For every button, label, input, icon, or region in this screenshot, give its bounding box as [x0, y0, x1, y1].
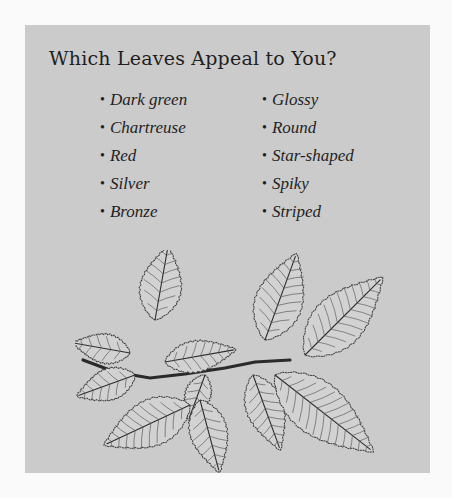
leaf-lower-left-mid — [75, 360, 141, 412]
leaf-preferences-panel: Which Leaves Appeal to You? •Dark green … — [25, 25, 430, 473]
bullet-icon: • — [100, 120, 105, 135]
list-item-label: Spiky — [272, 174, 309, 193]
leaf-texture-shape-list: •Glossy •Round •Star-shaped •Spiky •Stri… — [262, 88, 354, 228]
list-item: •Red — [100, 144, 187, 172]
list-item-label: Glossy — [272, 90, 318, 109]
bullet-icon: • — [262, 120, 267, 135]
bullet-icon: • — [100, 148, 105, 163]
leafy-branch-illustration — [75, 250, 385, 475]
leaves-group — [75, 250, 385, 475]
bullet-icon: • — [262, 148, 267, 163]
list-item-label: Chartreuse — [110, 118, 186, 137]
leaf-branch-drawing-icon — [75, 250, 385, 475]
page-title: Which Leaves Appeal to You? — [49, 47, 337, 69]
leaf-top-left — [134, 250, 189, 324]
list-item: •Chartreuse — [100, 116, 187, 144]
leaf-mid-left-small — [75, 328, 133, 368]
list-item: •Glossy — [262, 88, 354, 116]
list-item-label: Striped — [272, 202, 321, 221]
bullet-icon: • — [262, 204, 267, 219]
list-item-label: Bronze — [110, 202, 158, 221]
list-item-label: Red — [110, 146, 136, 165]
list-item: •Spiky — [262, 172, 354, 200]
list-item: •Striped — [262, 200, 354, 228]
bullet-icon: • — [100, 204, 105, 219]
bullet-icon: • — [262, 92, 267, 107]
list-item: •Dark green — [100, 88, 187, 116]
list-item: •Star-shaped — [262, 144, 354, 172]
list-item: •Round — [262, 116, 354, 144]
bullet-icon: • — [100, 92, 105, 107]
list-item-label: Silver — [110, 174, 150, 193]
list-item: •Silver — [100, 172, 187, 200]
leaf-color-list: •Dark green •Chartreuse •Red •Silver •Br… — [100, 88, 187, 228]
list-item-label: Star-shaped — [272, 146, 354, 165]
list-item: •Bronze — [100, 200, 187, 228]
leaf-center-horizontal — [162, 333, 239, 378]
bullet-icon: • — [100, 176, 105, 191]
list-item-label: Dark green — [110, 90, 187, 109]
list-item-label: Round — [272, 118, 316, 137]
bullet-icon: • — [262, 176, 267, 191]
